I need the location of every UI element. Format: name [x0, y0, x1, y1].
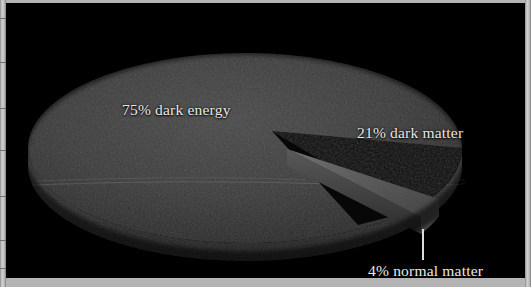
page-right-edge[interactable]: [525, 0, 531, 287]
chart-panel: 75% dark energy 21% dark matter 4% norma…: [6, 3, 525, 278]
slice-label-dark-energy: 75% dark energy: [122, 101, 231, 119]
slice-label-normal-matter: 4% normal matter: [368, 262, 483, 278]
screenshot-root: 75% dark energy 21% dark matter 4% norma…: [0, 0, 531, 287]
slice-label-dark-matter: 21% dark matter: [357, 124, 463, 142]
leader-line-normal-matter: [422, 229, 424, 260]
